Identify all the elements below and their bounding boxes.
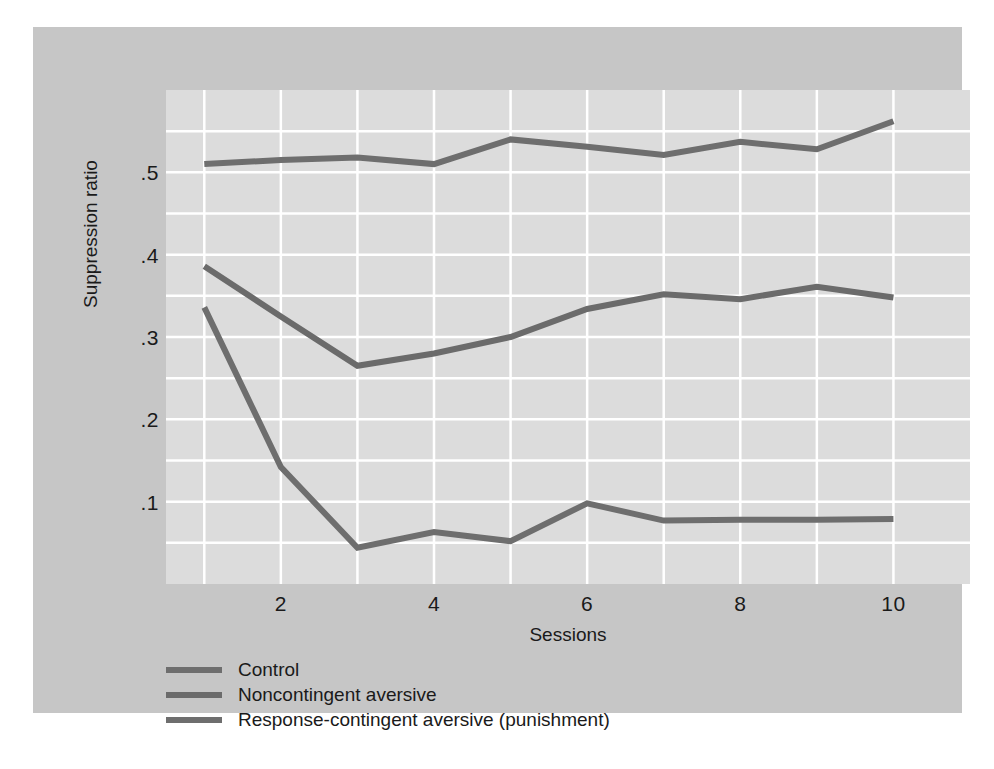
y-axis-ticks: .1.2.3.4.5	[93, 90, 159, 584]
horizontal-gridlines	[166, 131, 970, 543]
legend-swatch-icon	[166, 667, 222, 673]
figure-root: .1.2.3.4.5 Suppression ratio 246810 Sess…	[0, 0, 994, 769]
x-tick-label: 8	[710, 593, 770, 614]
series-line-1	[204, 121, 893, 164]
y-tick-label: .4	[115, 244, 159, 265]
legend-swatch-icon	[166, 692, 222, 698]
x-tick-label: 6	[557, 593, 617, 614]
figure-card: .1.2.3.4.5 Suppression ratio 246810 Sess…	[33, 27, 962, 713]
x-tick-label: 2	[251, 593, 311, 614]
x-tick-label: 10	[863, 593, 923, 614]
series-line-2	[204, 266, 893, 366]
legend-label: Response-contingent aversive (punishment…	[238, 710, 610, 729]
x-axis-ticks: 246810	[166, 593, 970, 623]
legend-label: Noncontingent aversive	[238, 685, 437, 704]
x-axis-title: Sessions	[166, 624, 970, 646]
plot-panel	[166, 90, 970, 584]
legend-swatch-icon	[166, 717, 222, 723]
y-tick-label: .2	[115, 409, 159, 430]
chart-legend: ControlNoncontingent aversiveResponse-co…	[166, 657, 866, 732]
series-line-3	[204, 307, 893, 547]
y-tick-label: .3	[115, 327, 159, 348]
legend-item[interactable]: Control	[166, 657, 866, 682]
legend-item[interactable]: Noncontingent aversive	[166, 682, 866, 707]
y-tick-label: .1	[115, 491, 159, 512]
legend-item[interactable]: Response-contingent aversive (punishment…	[166, 707, 866, 732]
series-lines	[204, 121, 893, 547]
x-tick-label: 4	[404, 593, 464, 614]
legend-label: Control	[238, 660, 299, 679]
plot-svg	[166, 90, 970, 584]
y-axis-title: Suppression ratio	[80, 124, 102, 344]
y-tick-label: .5	[115, 162, 159, 183]
